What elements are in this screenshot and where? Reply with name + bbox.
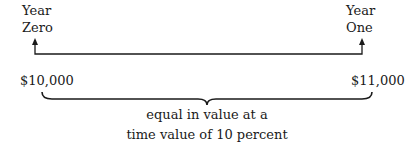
caption-line1: equal in value at a	[0, 105, 409, 125]
timeline-connector	[35, 43, 362, 54]
present-value-amount: $10,000	[20, 72, 74, 89]
arrowhead-up-icon	[32, 38, 365, 45]
curly-brace-icon	[42, 92, 372, 105]
future-value-amount: $11,000	[351, 72, 405, 89]
equivalence-caption: equal in value at a time value of 10 per…	[0, 105, 409, 145]
caption-line2: time value of 10 percent	[0, 125, 409, 145]
